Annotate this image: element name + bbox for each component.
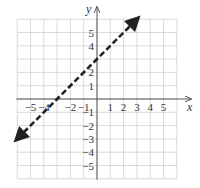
- plotted-line: [17, 19, 137, 139]
- x-tick-label: −2: [65, 101, 77, 113]
- y-tick-label: −2: [82, 120, 94, 132]
- x-tick-label: 2: [121, 101, 127, 113]
- x-tick-label: 3: [134, 101, 140, 113]
- x-tick-label: 4: [147, 101, 153, 113]
- dashed-line-y-equals-x-plus-3: [17, 19, 137, 139]
- coordinate-plane: −5−4−2−1123455421−1−2−3−4−5 x y: [0, 0, 200, 188]
- axes: [16, 7, 191, 180]
- y-tick-label: −3: [82, 133, 94, 145]
- y-tick-label: −4: [82, 146, 94, 158]
- x-tick-label: 1: [108, 101, 114, 113]
- y-tick-label: −1: [82, 106, 94, 118]
- y-axis-label: y: [85, 2, 92, 16]
- y-tick-label: 1: [89, 80, 95, 92]
- x-tick-label: 5: [161, 101, 167, 113]
- y-tick-label: −5: [82, 160, 94, 172]
- y-tick-label: 4: [89, 40, 95, 52]
- x-axis-label: x: [186, 100, 193, 114]
- y-tick-label: 5: [89, 27, 95, 39]
- x-tick-label: −5: [25, 101, 37, 113]
